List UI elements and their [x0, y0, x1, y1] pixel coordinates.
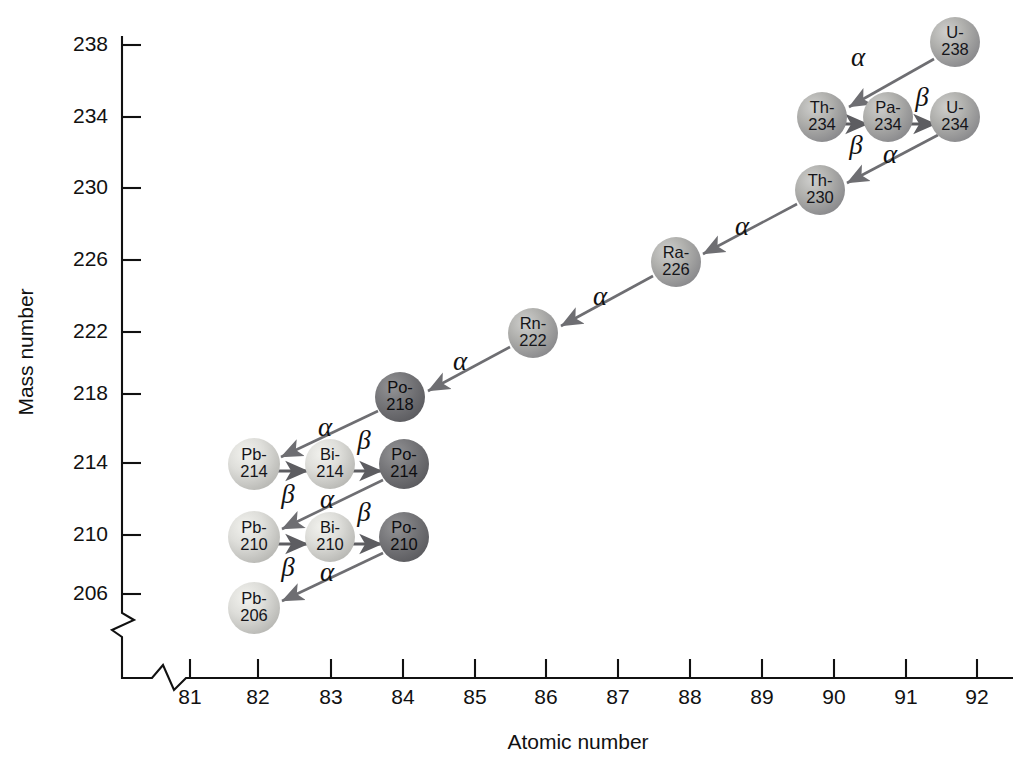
- y-tick-label-230: 230: [73, 175, 108, 198]
- nuclide-pb-214[interactable]: Pb-214: [228, 438, 280, 490]
- nuclide-mass-number: 238: [941, 40, 969, 58]
- decay-label-alpha-th-230: α: [735, 211, 750, 241]
- y-ticks: 238 234 230 226 222 218 214 210 206: [73, 32, 141, 604]
- alpha-decay-arrows: [281, 59, 938, 601]
- nuclide-mass-number: 214: [240, 462, 268, 480]
- nuclide-bi-214[interactable]: Bi-214: [305, 439, 355, 489]
- decay-label-alpha-ra-226: α: [593, 281, 608, 311]
- nuclide-mass-number: 214: [316, 462, 344, 480]
- nuclide-symbol: Bi-: [320, 518, 340, 536]
- decay-label-alpha-po-214: α: [320, 484, 335, 514]
- decay-series-figure: 238 234 230 226 222 218 214 210 206 81 8…: [0, 0, 1027, 767]
- decay-label-alpha-po-210: α: [320, 557, 335, 587]
- y-tick-label-206: 206: [73, 581, 108, 604]
- x-tick-label-92: 92: [965, 685, 988, 708]
- x-tick-label-83: 83: [319, 685, 342, 708]
- x-ticks: 81 82 83 84 85 86 87 88 89 90 91 92: [178, 659, 988, 708]
- nuclide-symbol: U-: [946, 23, 963, 41]
- nuclide-mass-number: 210: [390, 535, 418, 553]
- axis-y: [112, 36, 134, 655]
- nuclide-th-230[interactable]: Th-230: [795, 165, 845, 215]
- nuclide-mass-number: 234: [941, 115, 969, 133]
- nuclide-th-234[interactable]: Th-234: [797, 92, 847, 142]
- nuclide-rn-222[interactable]: Rn-222: [508, 308, 558, 358]
- y-tick-label-226: 226: [73, 247, 108, 270]
- decay-label-alpha-rn-222: α: [453, 346, 468, 376]
- y-tick-label-238: 238: [73, 32, 108, 55]
- decay-label-alpha-po-218: α: [318, 412, 333, 442]
- nuclide-symbol: Bi-: [320, 445, 340, 463]
- nuclide-mass-number: 210: [316, 535, 344, 553]
- nuclide-pb-210[interactable]: Pb-210: [228, 511, 280, 563]
- x-tick-label-91: 91: [894, 685, 917, 708]
- decay-label-beta-pa-234: β: [914, 82, 929, 112]
- decay-label-alpha-u-238: α: [851, 42, 866, 72]
- nuclide-mass-number: 206: [240, 606, 268, 624]
- decay-label-beta-th-234: β: [848, 130, 863, 160]
- nuclide-symbol: Po-: [391, 518, 417, 536]
- arrow-rn222-to-po218: [428, 347, 510, 391]
- nuclide-mass-number: 234: [808, 115, 836, 133]
- y-axis-title: Mass number: [14, 288, 37, 415]
- nuclide-mass-number: 234: [874, 115, 902, 133]
- nuclide-po-214[interactable]: Po-214: [379, 439, 429, 489]
- decay-label-alpha-u-234: α: [883, 139, 898, 169]
- nuclide-symbol: Th-: [808, 171, 833, 189]
- y-tick-label-218: 218: [73, 381, 108, 404]
- y-tick-label-234: 234: [73, 104, 108, 127]
- nuclide-po-210[interactable]: Po-210: [379, 512, 429, 562]
- nuclide-u-234[interactable]: U-234: [930, 92, 980, 142]
- decay-label-beta-pb-214: β: [280, 479, 295, 509]
- x-tick-label-87: 87: [606, 685, 629, 708]
- nuclide-mass-number: 230: [806, 188, 834, 206]
- x-tick-label-84: 84: [391, 685, 415, 708]
- nuclide-layer: U-238Th-234Pa-234U-234Th-230Ra-226Rn-222…: [228, 17, 980, 634]
- x-tick-label-85: 85: [463, 685, 486, 708]
- nuclide-ra-226[interactable]: Ra-226: [651, 237, 701, 287]
- nuclide-symbol: U-: [946, 98, 963, 116]
- nuclide-symbol: Po-: [387, 378, 413, 396]
- nuclide-po-218[interactable]: Po-218: [375, 372, 425, 422]
- nuclide-pa-234[interactable]: Pa-234: [863, 92, 913, 142]
- nuclide-mass-number: 218: [386, 395, 414, 413]
- nuclide-symbol: Pb-: [241, 518, 267, 536]
- arrow-th230-to-ra226: [703, 204, 797, 254]
- decay-label-beta-bi-214: β: [356, 425, 371, 455]
- x-tick-label-89: 89: [750, 685, 773, 708]
- nuclide-symbol: Pa-: [875, 98, 901, 116]
- x-tick-label-90: 90: [822, 685, 845, 708]
- x-tick-label-88: 88: [678, 685, 701, 708]
- x-tick-label-82: 82: [246, 685, 269, 708]
- nuclide-symbol: Ra-: [663, 243, 690, 261]
- nuclide-symbol: Rn-: [520, 314, 547, 332]
- decay-label-beta-bi-210: β: [356, 497, 371, 527]
- nuclide-symbol: Po-: [391, 445, 417, 463]
- nuclide-mass-number: 222: [519, 331, 547, 349]
- nuclide-u-238[interactable]: U-238: [930, 17, 980, 67]
- x-tick-label-86: 86: [534, 685, 557, 708]
- y-tick-label-222: 222: [73, 319, 108, 342]
- nuclide-bi-210[interactable]: Bi-210: [305, 512, 355, 562]
- nuclide-mass-number: 226: [662, 260, 690, 278]
- x-axis-title: Atomic number: [507, 730, 648, 753]
- nuclide-symbol: Th-: [810, 98, 835, 116]
- nuclide-mass-number: 214: [390, 462, 418, 480]
- x-tick-label-81: 81: [178, 685, 201, 708]
- nuclide-pb-206[interactable]: Pb-206: [228, 582, 280, 634]
- y-tick-label-210: 210: [73, 522, 108, 545]
- decay-label-beta-pb-210: β: [280, 552, 295, 582]
- nuclide-symbol: Pb-: [241, 589, 267, 607]
- y-axis-line: [112, 36, 134, 655]
- nuclide-symbol: Pb-: [241, 445, 267, 463]
- nuclide-mass-number: 210: [240, 535, 268, 553]
- y-tick-label-214: 214: [73, 450, 108, 473]
